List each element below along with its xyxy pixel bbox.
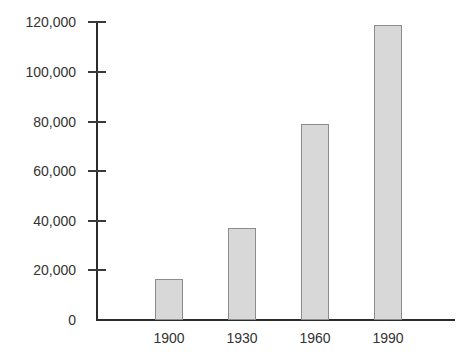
y-axis-label-60000: 60,000 <box>33 164 76 178</box>
y-tick-120000 <box>88 21 106 23</box>
bar-1990 <box>374 25 402 320</box>
y-tick-40000 <box>88 220 106 222</box>
y-axis-label-120000: 120,000 <box>25 15 76 29</box>
chart-title <box>0 0 468 2</box>
y-axis-label-0: 0 <box>68 313 76 327</box>
y-tick-100000 <box>88 71 106 73</box>
y-axis-label-40000: 40,000 <box>33 214 76 228</box>
bar-1900 <box>155 279 183 320</box>
y-axis-label-20000: 20,000 <box>33 263 76 277</box>
bar-chart: 0 20,000 40,000 60,000 80,000 100,000 12… <box>0 0 468 357</box>
y-tick-80000 <box>88 121 106 123</box>
x-axis-label-1930: 1930 <box>207 330 277 346</box>
x-axis-label-1900: 1900 <box>134 330 204 346</box>
y-tick-20000 <box>88 269 106 271</box>
bar-1960 <box>301 124 329 320</box>
y-axis-label-100000: 100,000 <box>25 65 76 79</box>
y-tick-60000 <box>88 170 106 172</box>
y-axis-label-80000: 80,000 <box>33 115 76 129</box>
x-axis-label-1960: 1960 <box>280 330 350 346</box>
bar-1930 <box>228 228 256 320</box>
x-axis-label-1990: 1990 <box>353 330 423 346</box>
